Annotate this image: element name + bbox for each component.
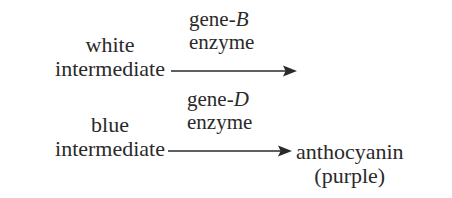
substrate-label-white-intermediate: white intermediate (55, 33, 165, 81)
gene-letter: D (234, 87, 249, 111)
product-label-anthocyanin: anthocyanin (purple) (296, 140, 404, 188)
enzyme-word-line: enzyme (187, 111, 252, 134)
enzyme-gene-line: gene-B (189, 8, 254, 31)
reaction-arrow-1 (171, 62, 299, 80)
gene-prefix: gene- (187, 87, 234, 111)
gene-prefix: gene- (189, 7, 236, 31)
gene-letter: B (236, 7, 249, 31)
pathway-diagram: white intermediate gene-B enzyme blue in… (0, 0, 452, 198)
substrate-line-1: blue (55, 113, 165, 137)
enzyme-label-gene-d: gene-D enzyme (187, 88, 252, 134)
substrate-line-2: intermediate (55, 57, 165, 81)
product-line-1: anthocyanin (296, 140, 404, 164)
enzyme-gene-line: gene-D (187, 88, 252, 111)
substrate-label-blue-intermediate: blue intermediate (55, 113, 165, 161)
product-line-2: (purple) (296, 164, 404, 188)
enzyme-label-gene-b: gene-B enzyme (189, 8, 254, 54)
enzyme-word-line: enzyme (189, 31, 254, 54)
substrate-line-2: intermediate (55, 137, 165, 161)
reaction-arrow-2 (168, 142, 296, 160)
substrate-line-1: white (55, 33, 165, 57)
